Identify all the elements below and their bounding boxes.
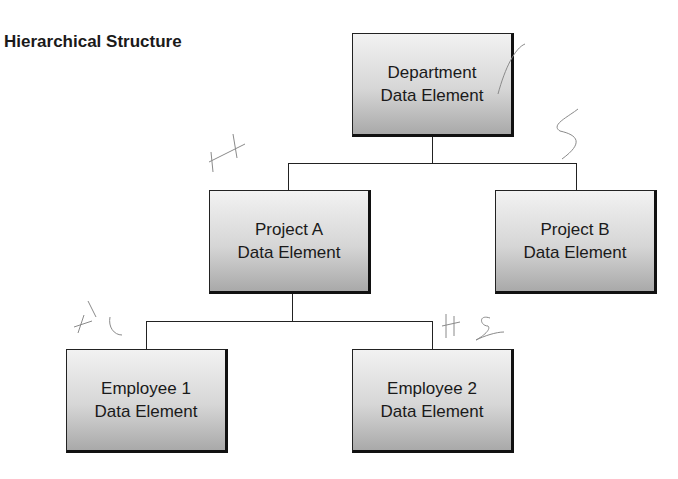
node-label-line2: Data Element bbox=[95, 400, 198, 423]
node-label-line2: Data Element bbox=[524, 241, 627, 264]
node-label-line1: Department bbox=[388, 61, 477, 84]
connector-level2-bar bbox=[146, 321, 433, 322]
node-label-line2: Data Element bbox=[381, 400, 484, 423]
connector-to-project-a bbox=[288, 163, 289, 190]
handwritten-mark-s bbox=[548, 103, 588, 163]
connector-project-a-stem bbox=[292, 293, 293, 321]
handwritten-mark-h2 bbox=[440, 308, 510, 348]
connector-department-stem bbox=[432, 136, 433, 163]
diagram-title: Hierarchical Structure bbox=[4, 32, 182, 52]
node-project-a: Project A Data Element bbox=[209, 190, 371, 294]
connector-level1-bar bbox=[288, 163, 577, 164]
node-label-line1: Employee 1 bbox=[101, 377, 191, 400]
handwritten-mark-h-top bbox=[205, 128, 255, 178]
node-employee-1: Employee 1 Data Element bbox=[66, 349, 228, 453]
node-label-line2: Data Element bbox=[238, 241, 341, 264]
node-label-line2: Data Element bbox=[381, 84, 484, 107]
node-employee-2: Employee 2 Data Element bbox=[352, 349, 514, 453]
node-label-line1: Project B bbox=[541, 218, 610, 241]
node-label-line1: Project A bbox=[255, 218, 323, 241]
handwritten-mark-h1 bbox=[70, 295, 130, 345]
connector-to-employee-2 bbox=[432, 321, 433, 349]
connector-to-project-b bbox=[576, 163, 577, 190]
connector-to-employee-1 bbox=[146, 321, 147, 349]
node-project-b: Project B Data Element bbox=[495, 190, 657, 294]
handwritten-mark-slash bbox=[490, 38, 530, 98]
node-label-line1: Employee 2 bbox=[387, 377, 477, 400]
